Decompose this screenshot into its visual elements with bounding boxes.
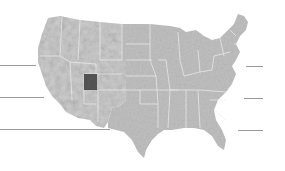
us-map: [0, 0, 285, 171]
highlighted-state-utah: [84, 74, 97, 90]
land-mass: [38, 14, 248, 158]
map-figure: [0, 0, 285, 171]
leader-lines-right: [238, 67, 263, 131]
